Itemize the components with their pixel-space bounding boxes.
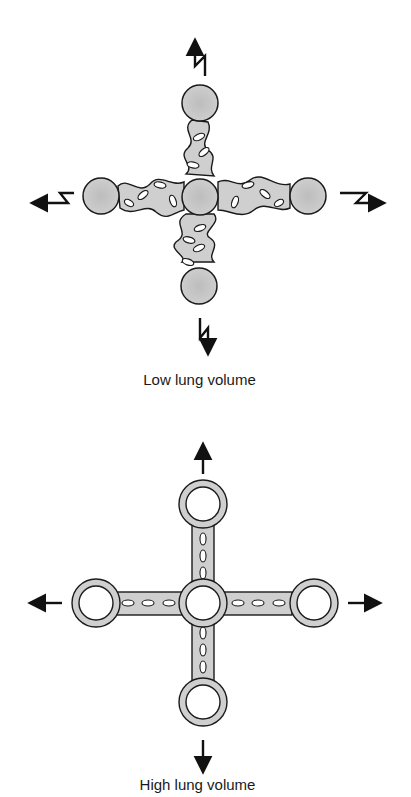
alveolus-right: [290, 178, 326, 214]
alveolus-top: [182, 85, 218, 121]
alveolus-left: [83, 178, 119, 214]
low-volume-panel: [34, 42, 382, 352]
high-volume-panel: [32, 446, 378, 770]
arrow-right-zigzag-icon: [340, 193, 382, 203]
ring-center: [179, 579, 227, 627]
arrow-up-zigzag-icon: [195, 42, 205, 76]
caption-high-lung-volume: High lung volume: [0, 776, 403, 793]
ring-left: [72, 579, 120, 627]
ring-bottom: [179, 678, 227, 726]
arrow-left-zigzag-icon: [34, 193, 74, 203]
alveolus-bottom: [181, 268, 217, 304]
arrow-down-zigzag-icon: [200, 318, 208, 352]
low-alveoli: [83, 85, 326, 304]
caption-low-lung-volume: Low lung volume: [0, 371, 405, 388]
lung-volume-diagram: [0, 0, 411, 797]
alveolus-center: [182, 179, 218, 215]
ring-right: [290, 579, 338, 627]
ring-top: [179, 480, 227, 528]
high-alveoli: [72, 480, 338, 726]
